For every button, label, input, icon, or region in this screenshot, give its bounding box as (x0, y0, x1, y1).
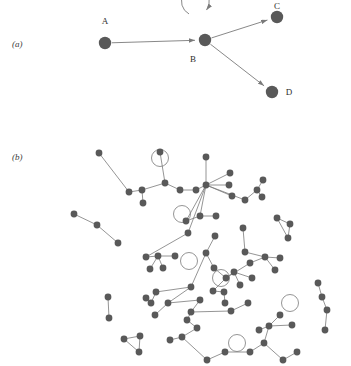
panel-b-node (153, 289, 160, 296)
panel-b-node (223, 275, 230, 282)
panel-b-node (155, 253, 162, 260)
panel-b-node (231, 269, 238, 276)
panel-b-node (222, 300, 229, 307)
panel-b-node (242, 197, 249, 204)
panel-b-node (227, 170, 234, 177)
panel-b-node (165, 300, 172, 307)
panel-b-node (193, 187, 200, 194)
panel-b-node (212, 233, 219, 240)
panel-b-node (261, 340, 268, 347)
panel-b-node (254, 187, 261, 194)
panel-b-node (266, 323, 273, 330)
panel-b-node (315, 280, 322, 287)
panel-b-node (140, 200, 147, 207)
panel-b-node (280, 357, 287, 364)
panel-b-node (272, 267, 279, 274)
panel-b-node (211, 265, 218, 272)
panel-b-node (143, 295, 150, 302)
panel-b-node (162, 180, 169, 187)
panel-b-node (277, 312, 284, 319)
panel-b-node (324, 307, 331, 314)
figure-background (0, 0, 351, 366)
network-figure: (a) ABCD (b) (0, 0, 351, 366)
panel-b-node (183, 218, 190, 225)
panel-b-node (188, 309, 195, 316)
panel-b-node (147, 266, 154, 273)
panel-b-node (203, 182, 210, 189)
panel-b-node (96, 150, 103, 157)
panel-a-node-D (266, 86, 278, 98)
panel-b-node (262, 254, 269, 261)
panel-b-node (188, 284, 195, 291)
panel-b-node (105, 294, 112, 301)
panel-a-node-A (99, 37, 111, 49)
panel-a-label: (a) (12, 39, 23, 49)
panel-b-node (94, 222, 101, 229)
panel-b-node (126, 189, 133, 196)
panel-b-node (245, 300, 252, 307)
panel-b-node (203, 250, 210, 257)
panel-b-node (247, 260, 254, 267)
panel-b-node (167, 337, 174, 344)
panel-b-node (157, 149, 164, 156)
panel-a-node-label-D: D (286, 87, 293, 97)
panel-b-node (136, 349, 143, 356)
panel-a-node-label-C: C (274, 1, 280, 11)
panel-b-node (256, 327, 263, 334)
panel-b-node (213, 213, 220, 220)
panel-a-node-B (199, 34, 211, 46)
panel-a-node-label-A: A (102, 16, 109, 26)
panel-b-node (197, 297, 204, 304)
panel-b-node (179, 334, 186, 341)
panel-b-node (177, 187, 184, 194)
panel-b-node (152, 312, 159, 319)
panel-b-node (229, 193, 236, 200)
panel-b-node (184, 317, 191, 324)
panel-b-node (172, 253, 179, 260)
panel-b-node (319, 294, 326, 301)
panel-b-node (285, 235, 292, 242)
panel-b-label: (b) (12, 152, 23, 162)
panel-b-node (222, 349, 229, 356)
panel-b-node (160, 265, 167, 272)
panel-b-node (242, 249, 249, 256)
panel-b-node (237, 282, 244, 289)
panel-b-node (226, 182, 233, 189)
panel-b-node (115, 240, 122, 247)
panel-b-node (260, 177, 267, 184)
panel-b-node (210, 288, 217, 295)
panel-b-node (137, 333, 144, 340)
panel-b-node (197, 213, 204, 220)
panel-b-node (259, 194, 266, 201)
panel-b-node (294, 349, 301, 356)
panel-b-node (277, 255, 284, 262)
panel-b-node (274, 215, 281, 222)
panel-b-node (289, 322, 296, 329)
panel-b-node (240, 225, 247, 232)
panel-a-node-C (271, 11, 283, 23)
panel-b-node (228, 308, 235, 315)
panel-b-node (71, 211, 78, 218)
panel-b-node (185, 230, 192, 237)
panel-a-node-label-B: B (190, 54, 196, 64)
panel-b-node (139, 187, 146, 194)
panel-b-node (194, 325, 201, 332)
panel-b-node (121, 336, 128, 343)
panel-b-node (247, 349, 254, 356)
panel-b-node (106, 315, 113, 322)
panel-b-node (204, 357, 211, 364)
panel-b-node (249, 275, 256, 282)
panel-b-node (287, 221, 294, 228)
panel-b-node (148, 300, 155, 307)
panel-b-node (203, 154, 210, 161)
panel-b-node (322, 327, 329, 334)
panel-b-node (221, 289, 228, 296)
panel-b-node (143, 254, 150, 261)
